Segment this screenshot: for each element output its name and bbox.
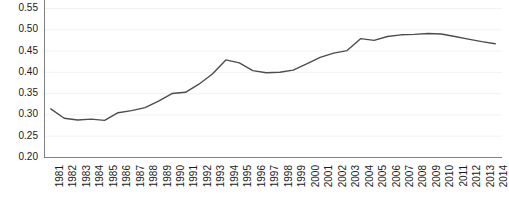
y-tick-label: 0.25: [19, 131, 38, 141]
y-tick-label: 0.20: [19, 152, 38, 162]
x-tick-label: 2003: [351, 165, 361, 187]
x-tick-label: 2011: [459, 165, 469, 187]
data-series-line: [51, 34, 496, 121]
y-tick-label: 0.45: [19, 46, 38, 56]
x-tick-label: 1985: [109, 165, 119, 187]
x-tick-label: 1987: [136, 165, 146, 187]
x-tick-label: 1999: [297, 165, 307, 187]
y-tick-label: 0.40: [19, 67, 38, 77]
x-tick-label: 2004: [365, 165, 375, 187]
y-axis: 0.200.250.300.350.400.450.500.55: [0, 0, 42, 165]
x-tick-label: 2009: [432, 165, 442, 187]
x-tick-label: 2001: [324, 165, 334, 187]
x-tick-label: 1993: [216, 165, 226, 187]
x-tick-label: 2002: [338, 165, 348, 187]
x-tick-label: 2012: [472, 165, 482, 187]
x-tick-label: 2005: [378, 165, 388, 187]
x-tick-label: 1989: [163, 165, 173, 187]
x-axis: 1981198219831984198519861987198819891990…: [44, 159, 502, 209]
plot-svg: [44, 0, 502, 158]
x-tick-label: 2000: [311, 165, 321, 187]
x-tick-label: 1981: [55, 165, 65, 187]
x-tick-label: 1988: [149, 165, 159, 187]
y-tick-label: 0.30: [19, 109, 38, 119]
x-tick-label: 1998: [284, 165, 294, 187]
x-tick-label: 1983: [82, 165, 92, 187]
x-tick-label: 2006: [392, 165, 402, 187]
x-tick-label: 1991: [189, 165, 199, 187]
x-tick-label: 1990: [176, 165, 186, 187]
x-tick-label: 2013: [486, 165, 496, 187]
x-tick-label: 1995: [243, 165, 253, 187]
x-tick-label: 2008: [418, 165, 428, 187]
plot-area: [44, 0, 502, 158]
x-tick-label: 1997: [270, 165, 280, 187]
x-tick-label: 2007: [405, 165, 415, 187]
x-tick-label: 1986: [122, 165, 132, 187]
x-tick-label: 1984: [95, 165, 105, 187]
y-tick-label: 0.55: [19, 3, 38, 13]
x-tick-label: 1982: [68, 165, 78, 187]
x-tick-label: 2014: [499, 165, 509, 187]
x-tick-label: 1994: [230, 165, 240, 187]
y-tick-label: 0.50: [19, 24, 38, 34]
x-tick-label: 1992: [203, 165, 213, 187]
x-tick-label: 1996: [257, 165, 267, 187]
x-tick-label: 2010: [445, 165, 455, 187]
y-tick-label: 0.35: [19, 88, 38, 98]
